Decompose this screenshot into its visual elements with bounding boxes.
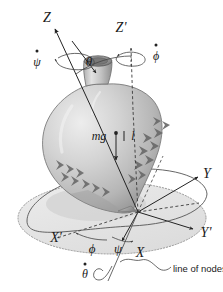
overdot-theta [84,263,87,266]
weight-label-mg: mg [92,129,107,143]
angle-label-psi: ψ [114,241,123,256]
rate-label-phi-dot: ϕ [153,44,159,64]
line-of-nodes-caption: line of nodes [173,263,223,274]
axis-label-Y-prime: Y' [201,225,213,240]
rate-label-psi-dot: ψ [33,50,41,70]
overdot-psi [36,50,39,53]
angle-label-phi: ϕ [89,241,96,256]
axis-label-Y: Y [203,166,213,181]
svg-text:ψ: ψ [33,55,41,69]
diagram-canvas: Z Z' ψ θ ϕ mg l Y Y' X' ϕ ψ X [0,0,223,292]
spinning-top-euler-angle-diagram: Z Z' ψ θ ϕ mg l Y Y' X' ϕ ψ X [0,0,223,292]
rate-label-theta-dot: θ [82,263,88,282]
line-of-nodes-leader [120,259,171,270]
overdot-phi [155,44,158,47]
precession-rate-phi-dot-curl [116,52,145,66]
axis-label-Z: Z [43,10,51,25]
axis-label-Z-prime: Z' [116,20,128,35]
angle-label-theta: θ [86,54,93,69]
svg-text:θ: θ [82,267,88,281]
axis-label-X: X [135,245,145,260]
axis-label-X-prime: X' [49,230,63,245]
svg-text:ϕ: ϕ [153,49,159,63]
